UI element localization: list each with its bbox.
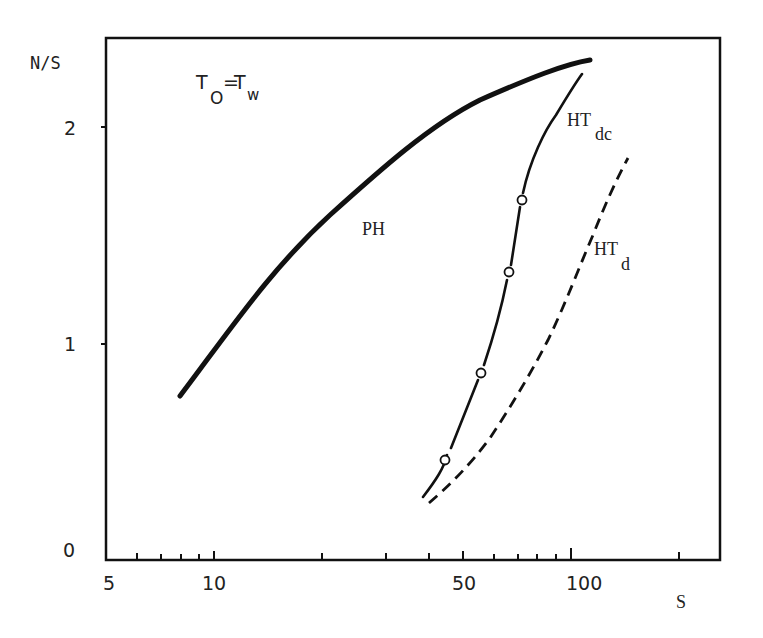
chart-canvas: N/S 2 1 0 5 10 50 100 S T O = T w PH HT … [0,0,763,638]
y-tick-label-1: 1 [64,333,76,355]
x-tick-label-50: 50 [452,572,476,594]
svg-text:HT: HT [567,110,591,130]
x-axis-label: S [676,592,686,612]
svg-text:d: d [621,254,630,274]
svg-text:T: T [195,71,208,93]
series-label-htd: HT d [594,239,630,274]
x-tick-label-5: 5 [103,572,115,594]
x-tick-label-100: 100 [566,572,602,594]
data-point-marker [505,268,514,277]
y-tick-label-0: 0 [63,539,75,561]
data-point-marker [441,456,450,465]
series-label-htdc: HT dc [567,110,612,144]
y-axis-label: N/S [30,53,61,73]
svg-text:HT: HT [594,239,618,259]
svg-text:w: w [247,86,259,104]
x-tick-label-10: 10 [202,572,226,594]
x-axis-ticks [137,548,679,560]
plot-frame [106,38,720,560]
svg-text:O: O [210,88,223,108]
data-point-marker [518,196,527,205]
svg-text:dc: dc [595,124,612,144]
htdc-markers [441,196,527,465]
condition-annotation: T O = T w [195,71,259,108]
data-point-marker [477,369,486,378]
svg-text:T: T [233,71,246,93]
series-htd-curve [429,158,628,503]
series-label-ph: PH [362,219,385,239]
series-htdc-curve [423,74,582,497]
y-tick-label-2: 2 [64,117,76,139]
